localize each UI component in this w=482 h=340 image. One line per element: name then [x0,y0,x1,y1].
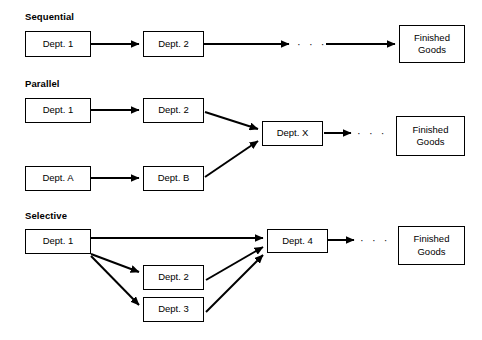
diagram-canvas: Sequential Parallel Selective Dept. 1 De… [0,0,482,340]
arrow-par-dept2-deptx [205,112,258,129]
par-ellipsis: · · · [357,128,387,139]
sel-dept-3-box[interactable]: Dept. 3 [143,297,204,322]
sel-finished-goods-box[interactable]: Finished Goods [398,226,465,265]
par-dept-2-box[interactable]: Dept. 2 [143,98,204,123]
par-dept-x-box[interactable]: Dept. X [262,121,323,146]
seq-ellipsis: · · · [297,39,327,50]
seq-finished-goods-box[interactable]: Finished Goods [399,25,465,63]
arrow-par-deptb-deptx [205,141,258,177]
sel-dept-4-box[interactable]: Dept. 4 [267,229,328,253]
sel-dept-1-box[interactable]: Dept. 1 [25,229,91,254]
par-finished-goods-box[interactable]: Finished Goods [396,116,465,156]
par-dept-b-box[interactable]: Dept. B [143,166,204,191]
sel-dept-2-box[interactable]: Dept. 2 [143,265,204,290]
seq-dept-1-box[interactable]: Dept. 1 [25,31,91,57]
sel-ellipsis: · · · [360,235,390,246]
par-dept-a-box[interactable]: Dept. A [25,166,91,191]
seq-dept-2-box[interactable]: Dept. 2 [143,31,204,57]
par-dept-1-box[interactable]: Dept. 1 [25,98,91,123]
